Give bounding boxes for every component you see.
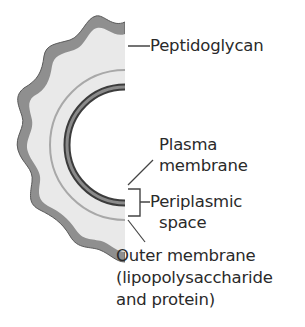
label-outer-1: Outer membrane [116,245,256,266]
label-peptidoglycan: Peptidoglycan [150,35,263,56]
label-outer-3: and protein) [116,289,215,310]
periplasmic-bracket [128,189,150,216]
label-periplasmic-1: Periplasmic [150,191,242,212]
label-plasma-membrane-1: Plasma [159,134,217,155]
label-plasma-membrane-2: membrane [159,155,248,176]
plasma-membrane-leader [128,160,153,185]
label-outer-2: (lipopolysaccharide [116,267,273,288]
label-periplasmic-2: space [159,212,206,233]
outer-membrane-leader [128,220,145,242]
